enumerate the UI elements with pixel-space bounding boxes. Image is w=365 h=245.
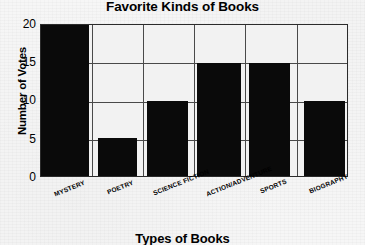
bar-action-adventure: [197, 63, 241, 176]
chart-title: Favorite Kinds of Books: [0, 0, 365, 15]
y-tick-label-5: 5: [2, 133, 36, 145]
bar-sports: [249, 63, 290, 176]
bar-chart-screenshot: Favorite Kinds of Books Number of Votes …: [0, 0, 365, 245]
x-axis-title: Types of Books: [0, 231, 365, 245]
bar-cell-science-fiction: [143, 25, 194, 176]
bar-cell-action-adventure: [194, 25, 245, 176]
y-axis-tick-labels: 20 15 10 5 0: [0, 0, 36, 245]
bar-cell-poetry: [92, 25, 143, 176]
y-tick-label-15: 15: [2, 56, 36, 68]
bar-biography: [304, 101, 345, 177]
y-tick-label-10: 10: [2, 94, 36, 106]
y-tick-label-20: 20: [2, 18, 36, 30]
plot-area: [40, 24, 348, 177]
x-tick-label-poetry: POETRY: [106, 179, 134, 196]
x-tick-label-mystery: MYSTERY: [53, 179, 86, 198]
y-tick-label-0: 0: [2, 171, 36, 183]
bar-science-fiction: [147, 101, 188, 177]
bar-series: [41, 25, 347, 176]
bar-cell-sports: [245, 25, 296, 176]
bar-poetry: [98, 138, 137, 176]
bar-cell-biography: [297, 25, 350, 176]
bar-cell-mystery: [41, 25, 92, 176]
x-tick-label-sports: SPORTS: [259, 178, 288, 195]
bar-mystery: [41, 25, 89, 176]
